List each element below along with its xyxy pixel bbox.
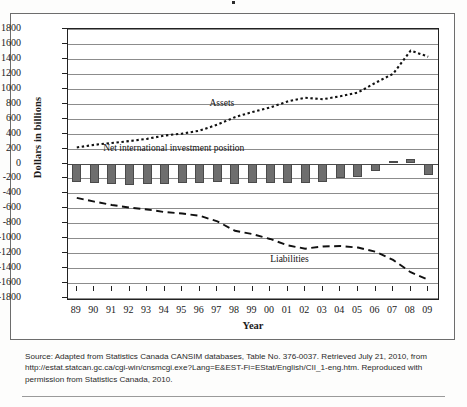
- y-tick-mark: [62, 103, 67, 104]
- y-tick-mark: [62, 88, 67, 89]
- plot-inner: [68, 29, 438, 299]
- x-tick-mark: [427, 286, 428, 291]
- y-tick-label: 600: [0, 113, 21, 123]
- y-tick-label: -1000: [0, 232, 21, 242]
- y-tick-mark: [62, 58, 67, 59]
- source-line-1: Source: Adapted from Statistics Canada C…: [25, 351, 443, 362]
- x-tick-mark: [146, 286, 147, 291]
- y-tick-mark: [62, 207, 67, 208]
- source-line-3: permission from Statistics Canada, 2010.: [25, 374, 443, 385]
- x-tick-mark: [181, 286, 182, 291]
- y-tick-mark: [62, 28, 67, 29]
- bottom-divider: [22, 396, 445, 397]
- series-label-net-international-investment-position: Net international investment position: [103, 143, 244, 153]
- x-tick-mark: [375, 286, 376, 291]
- y-tick-label: -1400: [0, 262, 21, 272]
- y-tick-mark: [62, 163, 67, 164]
- y-tick-mark: [62, 222, 67, 223]
- series-layer: [68, 29, 437, 298]
- x-tick-mark: [287, 286, 288, 291]
- x-tick-mark: [410, 286, 411, 291]
- x-tick-mark: [322, 286, 323, 291]
- x-axis-title: Year: [67, 320, 439, 331]
- y-tick-mark: [62, 192, 67, 193]
- x-tick-mark: [304, 286, 305, 291]
- series-line-assets: [77, 51, 428, 148]
- y-tick-label: 800: [0, 98, 21, 108]
- x-tick-mark: [164, 286, 165, 291]
- gridline: [68, 298, 438, 299]
- y-tick-mark: [62, 133, 67, 134]
- series-line-liabilities: [77, 198, 428, 280]
- y-axis-title: Dollars in billions: [32, 68, 43, 208]
- y-tick-label: 200: [0, 143, 21, 153]
- y-tick-mark: [62, 73, 67, 74]
- y-tick-label: 1400: [0, 53, 21, 63]
- y-tick-mark: [62, 282, 67, 283]
- y-tick-label: 1200: [0, 68, 21, 78]
- x-tick-mark: [129, 286, 130, 291]
- y-tick-label: -1600: [0, 277, 21, 287]
- x-tick-label: 09: [416, 304, 438, 315]
- figure-page: Dollars in billions 18001600140012001000…: [0, 0, 467, 407]
- clipped-title-artifact: [232, 1, 235, 4]
- y-tick-label: 1600: [0, 38, 21, 48]
- x-tick-mark: [269, 286, 270, 291]
- y-tick-mark: [62, 118, 67, 119]
- x-tick-mark: [392, 286, 393, 291]
- y-tick-label: -400: [0, 187, 21, 197]
- x-tick-mark: [76, 286, 77, 291]
- y-tick-mark: [62, 177, 67, 178]
- y-tick-label: 1000: [0, 83, 21, 93]
- y-tick-label: 1800: [0, 23, 21, 33]
- y-tick-label: 400: [0, 128, 21, 138]
- x-tick-mark: [357, 286, 358, 291]
- source-caption: Source: Adapted from Statistics Canada C…: [25, 351, 443, 385]
- x-tick-mark: [216, 286, 217, 291]
- x-tick-mark: [252, 286, 253, 291]
- x-tick-mark: [93, 286, 94, 291]
- series-label-assets: Assets: [210, 98, 235, 108]
- y-tick-label: -1800: [0, 292, 21, 302]
- y-tick-mark: [62, 148, 67, 149]
- y-tick-label: -800: [0, 217, 21, 227]
- x-tick-mark: [199, 286, 200, 291]
- y-tick-mark: [62, 297, 67, 298]
- x-tick-mark: [234, 286, 235, 291]
- y-tick-mark: [62, 237, 67, 238]
- series-label-liabilities: Liabilities: [270, 254, 309, 264]
- x-tick-mark: [111, 286, 112, 291]
- y-tick-label: -200: [0, 172, 21, 182]
- x-tick-mark: [339, 286, 340, 291]
- y-tick-label: -1200: [0, 247, 21, 257]
- source-line-2: http://estat.statcan.gc.ca/cgi-win/cnsmc…: [25, 362, 443, 373]
- chart-frame: Dollars in billions 18001600140012001000…: [10, 13, 455, 340]
- y-tick-mark: [62, 43, 67, 44]
- plot-area: [67, 28, 439, 300]
- y-tick-label: -600: [0, 202, 21, 212]
- y-tick-mark: [62, 252, 67, 253]
- y-tick-mark: [62, 267, 67, 268]
- y-tick-label: 0: [0, 158, 21, 168]
